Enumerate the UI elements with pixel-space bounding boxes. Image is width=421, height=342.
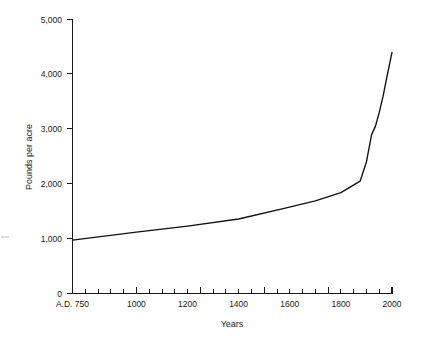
y-tick-label-0: 0 [57,289,62,299]
x-tick-label-1800: 1800 [331,299,350,309]
chart-figure: 0 1,000 2,000 3,000 4,000 5,000 A.D. 750… [0,0,421,342]
y-axis-title: Pounds per acre [24,124,34,190]
x-tick-label-1400: 1400 [229,299,248,309]
x-tick-label-1000: 1000 [127,299,146,309]
y-tick-label-2000: 2,000 [41,179,63,189]
y-tick-label-3000: 3,000 [41,124,63,134]
chart-plot-area: 0 1,000 2,000 3,000 4,000 5,000 A.D. 750… [0,0,421,342]
y-axis-ticks [67,20,73,294]
x-axis-minor-ticks [85,289,379,294]
y-tick-label-5000: 5,000 [41,15,63,25]
x-tick-label-1200: 1200 [178,299,197,309]
x-axis-major-ticks [73,287,393,294]
y-tick-label-4000: 4,000 [41,69,63,79]
y-tick-label-1000: 1,000 [41,234,63,244]
x-tick-label-1600: 1600 [280,299,299,309]
x-tick-label-2000: 2000 [383,299,402,309]
x-axis-title: Years [221,319,244,329]
yield-data-line [73,52,393,240]
x-tick-label-750: A.D. 750 [56,299,89,309]
